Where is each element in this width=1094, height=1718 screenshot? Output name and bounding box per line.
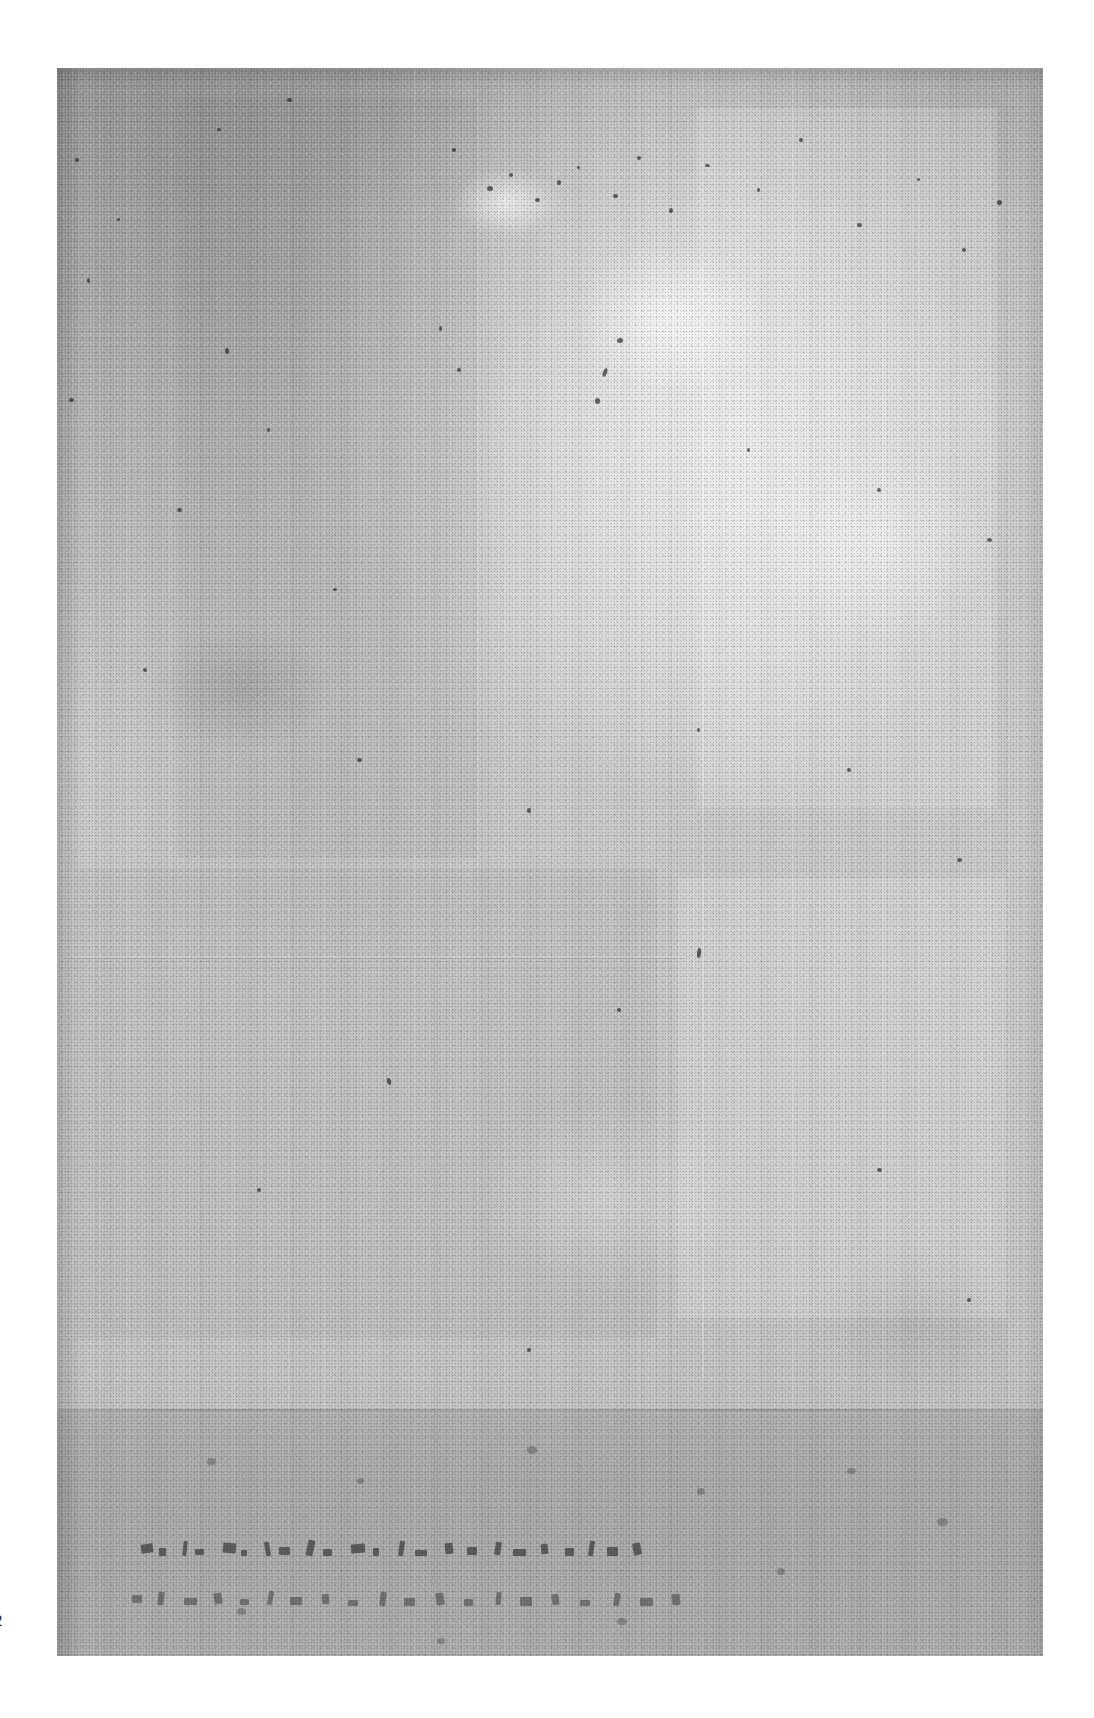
- page-number: 2: [0, 1612, 3, 1629]
- document-caption: Scanned page of an old document; the pag…: [0, 0, 1, 1]
- scan-canvas: Scanned page of an old document; the pag…: [0, 0, 1094, 1718]
- bottom-band: [57, 1411, 1043, 1656]
- scanned-page-sheet: [57, 68, 1043, 1656]
